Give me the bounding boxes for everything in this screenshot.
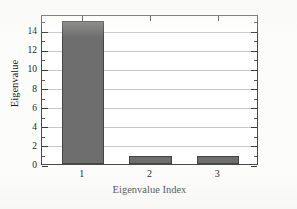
y-tick-major-right <box>251 166 257 167</box>
y-tick-minor-right <box>254 22 257 23</box>
y-tick-minor <box>42 22 45 23</box>
eigenvalue-bar-chart-figure: Eigenvalue 02468101214 123 Eigenvalue In… <box>0 0 297 209</box>
y-tick-label: 12 <box>28 45 38 55</box>
y-tick-major <box>42 70 48 71</box>
bar <box>129 156 171 164</box>
x-tick-major-top <box>218 16 219 21</box>
y-tick-major <box>42 51 48 52</box>
y-tick-major <box>42 89 48 90</box>
y-tick-major-right <box>251 127 257 128</box>
y-tick-major <box>42 32 48 33</box>
y-tick-minor <box>42 41 45 42</box>
y-tick-label: 8 <box>32 84 37 94</box>
y-tick-major <box>42 127 48 128</box>
y-tick-minor <box>42 156 45 157</box>
y-tick-major-right <box>251 51 257 52</box>
bar <box>197 156 239 164</box>
x-axis-title: Eigenvalue Index <box>41 184 258 195</box>
y-tick-major-right <box>251 32 257 33</box>
y-tick-minor <box>42 137 45 138</box>
y-tick-minor-right <box>254 99 257 100</box>
y-tick-minor <box>42 60 45 61</box>
y-tick-major-right <box>251 146 257 147</box>
y-tick-major <box>42 166 48 167</box>
y-tick-label: 2 <box>32 141 37 151</box>
y-tick-label: 6 <box>32 103 37 113</box>
y-tick-label: 10 <box>28 64 38 74</box>
y-tick-minor-right <box>254 137 257 138</box>
x-tick-label: 1 <box>79 168 84 179</box>
x-tick-label: 3 <box>215 168 220 179</box>
y-tick-minor <box>42 80 45 81</box>
y-tick-label: 0 <box>32 160 37 170</box>
y-tick-minor-right <box>254 118 257 119</box>
x-tick-label: 2 <box>147 168 152 179</box>
y-tick-minor-right <box>254 156 257 157</box>
x-tick-major-top <box>150 16 151 21</box>
y-tick-major-right <box>251 108 257 109</box>
y-tick-minor <box>42 118 45 119</box>
y-tick-minor-right <box>254 60 257 61</box>
y-tick-label: 4 <box>32 122 37 132</box>
x-axis-tick-labels: 123 <box>41 168 258 182</box>
y-tick-major <box>42 146 48 147</box>
y-tick-major <box>42 108 48 109</box>
y-axis-tick-labels: 02468101214 <box>12 15 37 165</box>
y-tick-minor-right <box>254 80 257 81</box>
y-tick-minor-right <box>254 41 257 42</box>
y-tick-label: 14 <box>28 26 38 36</box>
y-tick-major-right <box>251 70 257 71</box>
y-tick-minor <box>42 99 45 100</box>
y-tick-major-right <box>251 89 257 90</box>
bar <box>62 21 104 164</box>
plot-area <box>41 15 258 165</box>
